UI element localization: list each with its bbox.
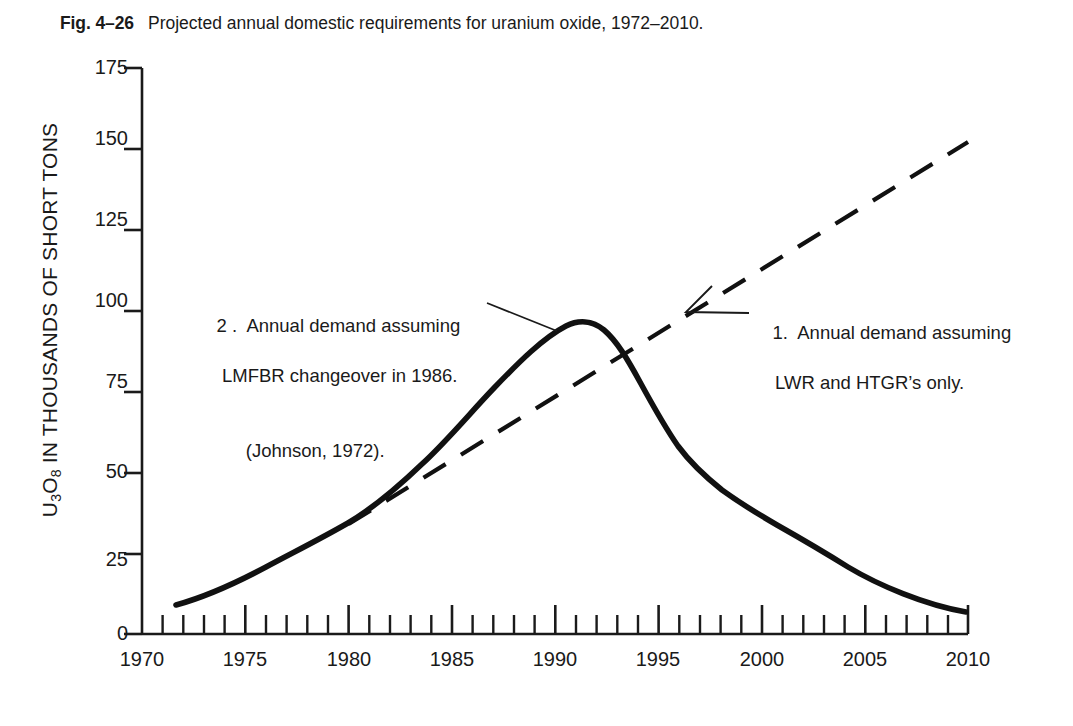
annotation-curve-2-line-2: LMFBR changeover in 1986. bbox=[196, 363, 460, 388]
annotation-curve-1-line-1: 1. Annual demand assuming bbox=[773, 322, 1012, 343]
annotation-2-leader-line bbox=[487, 303, 557, 331]
annotation-curve-2-line-1: 2 . Annual demand assuming bbox=[217, 315, 461, 336]
annotation-curve-1-line-2: LWR and HTGR’s only. bbox=[752, 370, 1011, 395]
chart-figure: U3O8 IN THOUSANDS OF SHORT TONS 175 150 … bbox=[0, 0, 1073, 726]
annotation-curve-1: 1. Annual demand assuming LWR and HTGR’s… bbox=[752, 295, 1011, 445]
annotation-curve-2: 2 . Annual demand assuming LMFBR changeo… bbox=[196, 288, 460, 513]
annotation-curve-2-line-3: (Johnson, 1972). bbox=[196, 438, 460, 463]
x-axis-major-ticks bbox=[245, 605, 968, 634]
y-axis-ticks bbox=[124, 68, 142, 634]
